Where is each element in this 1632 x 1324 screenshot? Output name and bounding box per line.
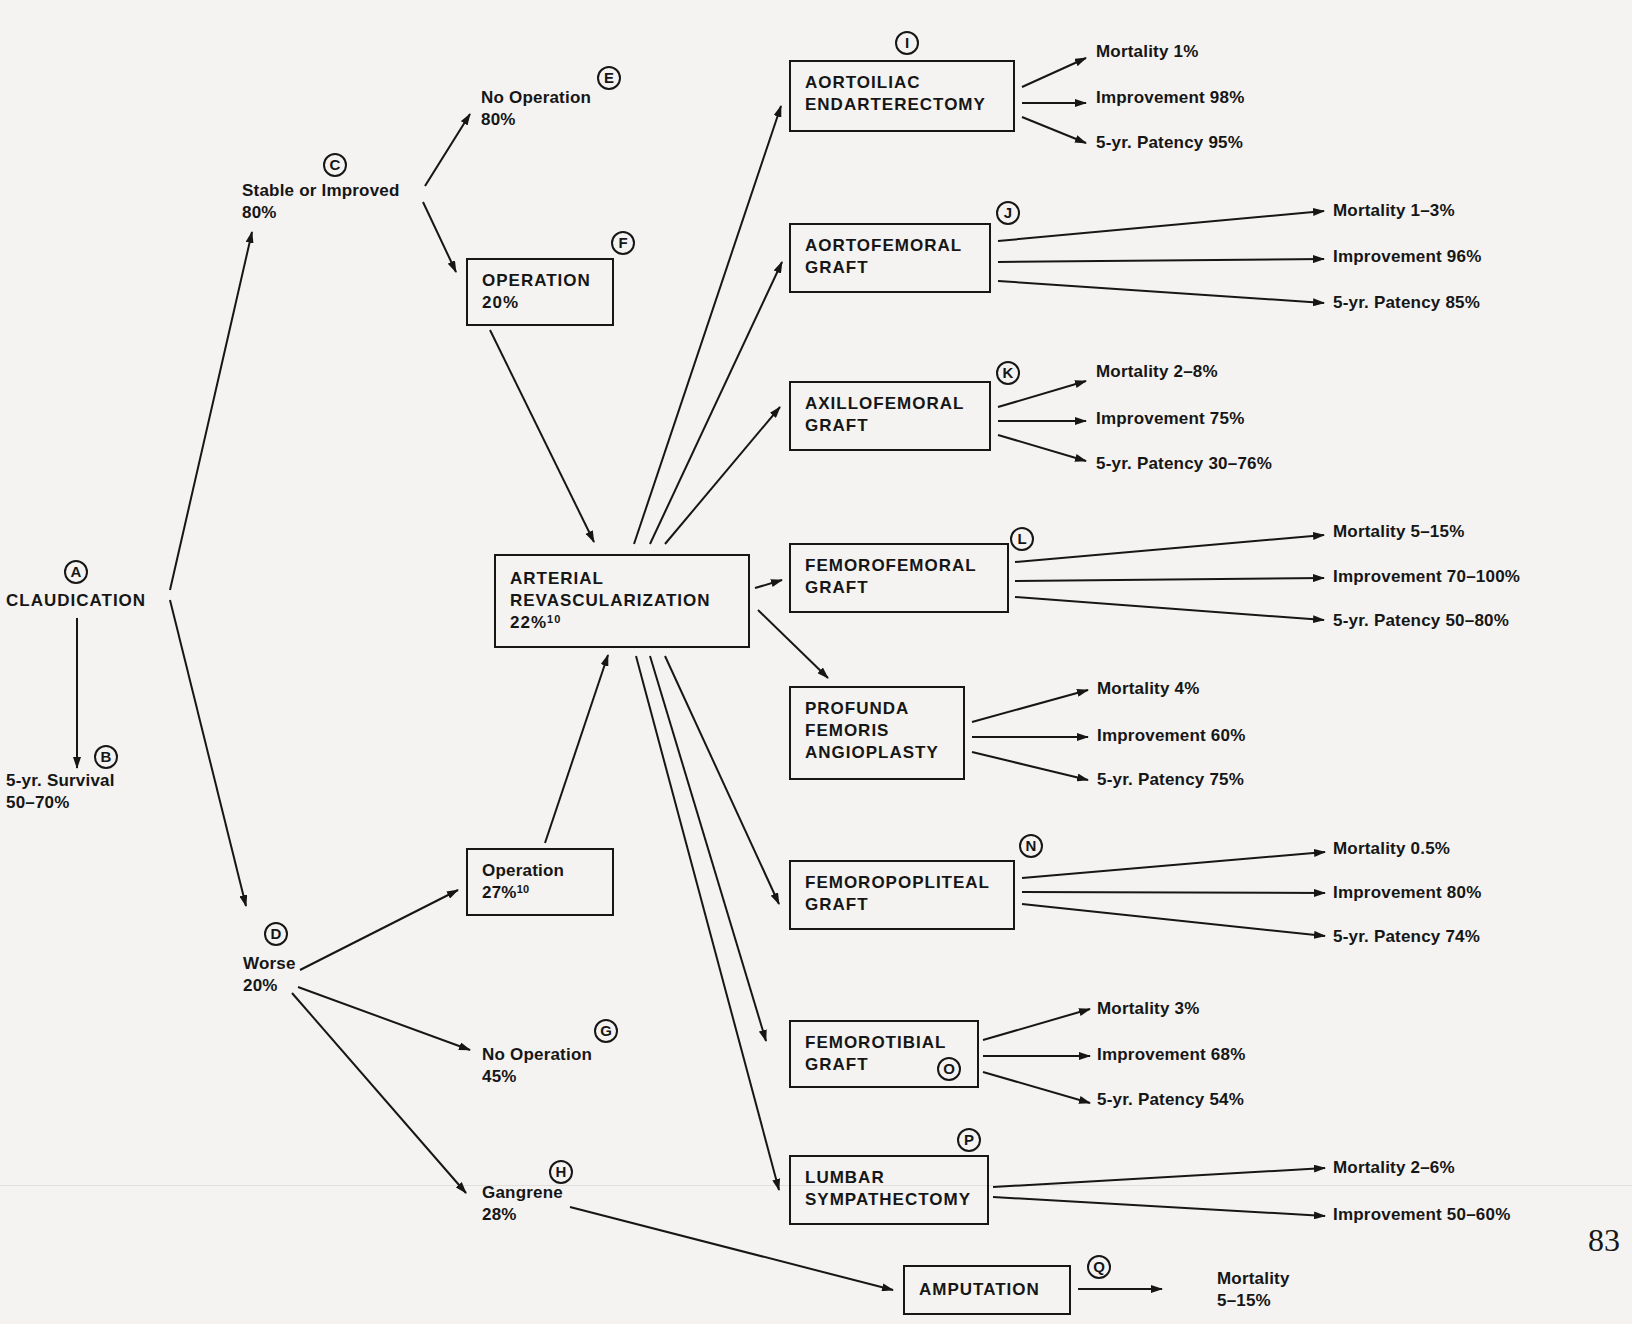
stable-node: Stable or Improved 80% [242, 180, 400, 224]
procedure-label: GRAFT [805, 257, 975, 279]
procedure-label: AORTOILIAC [805, 72, 999, 94]
outcome-improvement: Improvement 68% [1097, 1044, 1246, 1066]
operation-worse-value: 27% [482, 883, 517, 902]
survival-node: 5-yr. Survival 50–70% [6, 770, 115, 814]
outcome-mortality: Mortality 4% [1097, 678, 1200, 700]
outcome-mortality: Mortality 5–15% [1333, 521, 1465, 543]
marker-o: O [937, 1057, 961, 1081]
revascularization-label-1: ARTERIAL [510, 568, 734, 590]
outcome-patency: 5-yr. Patency 30–76% [1096, 453, 1272, 475]
outcome-patency: 5-yr. Patency 50–80% [1333, 610, 1509, 632]
procedure-label: GRAFT [805, 894, 999, 916]
no-operation-stable-node: No Operation 80% [481, 87, 591, 131]
page-number: 83 [1588, 1222, 1620, 1259]
marker-p: P [957, 1128, 981, 1152]
procedure-label: FEMORIS [805, 720, 949, 742]
procedure-box-femoropopliteal-graft: FEMOROPOPLITEAL GRAFT [789, 860, 1015, 930]
marker-b: B [94, 745, 118, 769]
no-operation-stable-value: 80% [481, 109, 591, 131]
operation-worse-box: Operation 27%10 [466, 848, 614, 916]
amputation-label: AMPUTATION [919, 1279, 1055, 1301]
revascularization-value: 22% [510, 613, 547, 632]
operation-stable-value: 20% [482, 292, 598, 314]
marker-q: Q [1087, 1255, 1111, 1279]
stable-value: 80% [242, 202, 400, 224]
no-operation-worse-value: 45% [482, 1066, 592, 1088]
outcome-improvement: Improvement 75% [1096, 408, 1245, 430]
outcome-patency: 5-yr. Patency 74% [1333, 926, 1480, 948]
arterial-revascularization-box: ARTERIAL REVASCULARIZATION 22%10 [494, 554, 750, 648]
gangrene-label: Gangrene [482, 1182, 563, 1204]
marker-d: D [264, 922, 288, 946]
revascularization-label-2: REVASCULARIZATION [510, 590, 734, 612]
procedure-box-femorofemoral-graft: FEMOROFEMORAL GRAFT [789, 543, 1009, 613]
marker-l: L [1010, 527, 1034, 551]
worse-label: Worse [243, 953, 296, 975]
outcome-improvement: Improvement 50–60% [1333, 1204, 1510, 1226]
procedure-label: LUMBAR [805, 1167, 973, 1189]
marker-e: E [597, 66, 621, 90]
procedure-label: SYMPATHECTOMY [805, 1189, 973, 1211]
amputation-outcome-label: Mortality [1217, 1268, 1290, 1290]
procedure-label: FEMOROTIBIAL [805, 1032, 963, 1054]
procedure-box-lumbar-sympathectomy: LUMBAR SYMPATHECTOMY [789, 1155, 989, 1225]
marker-f: F [611, 231, 635, 255]
survival-label: 5-yr. Survival [6, 770, 115, 792]
procedure-label: GRAFT [805, 577, 993, 599]
procedure-box-profunda-femoris-angioplasty: PROFUNDA FEMORIS ANGIOPLASTY [789, 686, 965, 780]
no-operation-worse-node: No Operation 45% [482, 1044, 592, 1088]
marker-n: N [1019, 834, 1043, 858]
outcome-mortality: Mortality 2–8% [1096, 361, 1218, 383]
procedure-label: FEMOROPOPLITEAL [805, 872, 999, 894]
outcome-mortality: Mortality 1% [1096, 41, 1199, 63]
procedure-label: ENDARTERECTOMY [805, 94, 999, 116]
outcome-improvement: Improvement 96% [1333, 246, 1482, 268]
marker-h: H [549, 1160, 573, 1184]
outcome-mortality: Mortality 0.5% [1333, 838, 1450, 860]
procedure-box-aortoiliac-endarterectomy: AORTOILIAC ENDARTERECTOMY [789, 60, 1015, 132]
no-operation-worse-label: No Operation [482, 1044, 592, 1066]
stable-label: Stable or Improved [242, 180, 400, 202]
procedure-label: AXILLOFEMORAL [805, 393, 975, 415]
survival-value: 50–70% [6, 792, 115, 814]
procedure-box-axillofemoral-graft: AXILLOFEMORAL GRAFT [789, 381, 991, 451]
procedure-label: PROFUNDA [805, 698, 949, 720]
revascularization-reference: 10 [547, 613, 561, 625]
outcome-patency: 5-yr. Patency 54% [1097, 1089, 1244, 1111]
procedure-label: AORTOFEMORAL [805, 235, 975, 257]
procedure-box-aortofemoral-graft: AORTOFEMORAL GRAFT [789, 223, 991, 293]
gangrene-value: 28% [482, 1204, 563, 1226]
worse-value: 20% [243, 975, 296, 997]
no-operation-stable-label: No Operation [481, 87, 591, 109]
outcome-mortality: Mortality 2–6% [1333, 1157, 1455, 1179]
marker-k: K [996, 361, 1020, 385]
procedure-label: ANGIOPLASTY [805, 742, 949, 764]
worse-node: Worse 20% [243, 953, 296, 997]
outcome-improvement: Improvement 80% [1333, 882, 1482, 904]
outcome-improvement: Improvement 60% [1097, 725, 1246, 747]
operation-worse-reference: 10 [517, 883, 530, 895]
outcome-mortality: Mortality 3% [1097, 998, 1200, 1020]
outcome-patency: 5-yr. Patency 75% [1097, 769, 1244, 791]
marker-c: C [323, 153, 347, 177]
operation-stable-box: OPERATION 20% [466, 258, 614, 326]
outcome-patency: 5-yr. Patency 85% [1333, 292, 1480, 314]
marker-a: A [64, 560, 88, 584]
amputation-outcome-value: 5–15% [1217, 1290, 1290, 1312]
procedure-label: FEMOROFEMORAL [805, 555, 993, 577]
procedure-label: GRAFT [805, 415, 975, 437]
operation-stable-label: OPERATION [482, 270, 598, 292]
amputation-outcome: Mortality 5–15% [1217, 1268, 1290, 1312]
operation-worse-label: Operation [482, 860, 598, 882]
gangrene-node: Gangrene 28% [482, 1182, 563, 1226]
outcome-improvement: Improvement 70–100% [1333, 566, 1520, 588]
marker-j: J [996, 201, 1020, 225]
marker-i: I [895, 31, 919, 55]
root-node-claudication: CLAUDICATION [6, 590, 146, 612]
outcome-improvement: Improvement 98% [1096, 87, 1245, 109]
outcome-patency: 5-yr. Patency 95% [1096, 132, 1243, 154]
amputation-box: AMPUTATION [903, 1265, 1071, 1315]
outcome-mortality: Mortality 1–3% [1333, 200, 1455, 222]
marker-g: G [594, 1019, 618, 1043]
